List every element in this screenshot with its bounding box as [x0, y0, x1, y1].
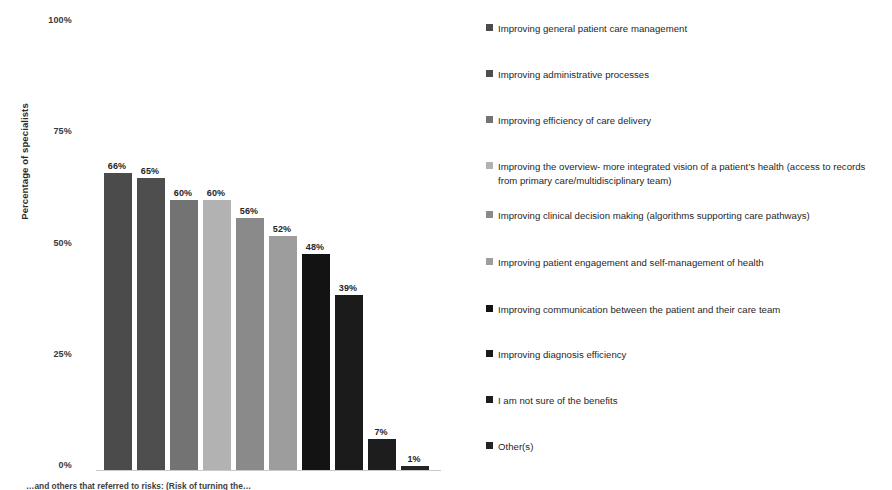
bar-8[interactable] — [335, 295, 363, 471]
legend-label-10: Other(s) — [498, 440, 533, 454]
bar-value-label-8: 39% — [330, 283, 366, 293]
bar-chart-figure: Percentage of specialists 100%75%50%25%0… — [0, 0, 892, 490]
legend-swatch-icon-9 — [486, 396, 493, 403]
legend-label-8: Improving diagnosis efficiency — [498, 348, 626, 362]
legend-swatch-icon-10 — [486, 442, 493, 449]
legend-swatch-icon-8 — [486, 350, 493, 357]
bar-value-label-3: 60% — [165, 188, 201, 198]
plot-region: 66%65%60%60%56%52%48%39%7%1% — [96, 16, 446, 471]
legend-item-5[interactable]: Improving clinical decision making (algo… — [486, 209, 886, 223]
x-axis-line — [96, 470, 441, 471]
bar-value-label-1: 66% — [99, 161, 135, 171]
legend-item-2[interactable]: Improving administrative processes — [486, 68, 886, 82]
legend-item-7[interactable]: Improving communication between the pati… — [486, 303, 886, 317]
legend-swatch-icon-3 — [486, 116, 493, 123]
bar-series: 66%65%60%60%56%52%48%39%7%1% — [103, 20, 443, 470]
bar-slot-5[interactable]: 56% — [235, 20, 268, 470]
legend-label-5: Improving clinical decision making (algo… — [498, 209, 810, 223]
y-axis-tick-0: 0% — [32, 460, 72, 470]
legend-item-4[interactable]: Improving the overview- more integrated … — [486, 160, 886, 187]
bar-value-label-2: 65% — [132, 166, 168, 176]
bar-6[interactable] — [269, 236, 297, 470]
y-axis-tick-25: 25% — [32, 349, 72, 359]
legend-label-6: Improving patient engagement and self-ma… — [498, 256, 764, 270]
legend-swatch-icon-6 — [486, 258, 493, 265]
bar-value-label-4: 60% — [198, 188, 234, 198]
legend-swatch-icon-4 — [486, 162, 493, 169]
bar-slot-8[interactable]: 39% — [334, 20, 367, 470]
legend-label-3: Improving efficiency of care delivery — [498, 114, 651, 128]
y-axis-tick-75: 75% — [32, 126, 72, 136]
bar-5[interactable] — [236, 218, 264, 470]
bar-slot-1[interactable]: 66% — [103, 20, 136, 470]
legend-swatch-icon-5 — [486, 211, 493, 218]
bar-slot-2[interactable]: 65% — [136, 20, 169, 470]
bar-7[interactable] — [302, 254, 330, 470]
bar-slot-7[interactable]: 48% — [301, 20, 334, 470]
bar-value-label-5: 56% — [231, 206, 267, 216]
chart-legend: Improving general patient care managemen… — [486, 0, 892, 460]
legend-label-7: Improving communication between the pati… — [498, 303, 780, 317]
legend-item-1[interactable]: Improving general patient care managemen… — [486, 22, 886, 36]
bar-slot-10[interactable]: 1% — [400, 20, 433, 470]
y-axis-tick-labels: 100%75%50%25%0% — [28, 0, 72, 490]
bar-2[interactable] — [137, 178, 165, 471]
legend-label-2: Improving administrative processes — [498, 68, 649, 82]
legend-item-3[interactable]: Improving efficiency of care delivery — [486, 114, 886, 128]
chart-area: Percentage of specialists 100%75%50%25%0… — [0, 0, 470, 490]
bar-1[interactable] — [104, 173, 132, 470]
legend-item-10[interactable]: Other(s) — [486, 440, 886, 454]
legend-swatch-icon-7 — [486, 305, 493, 312]
bar-10[interactable] — [401, 466, 429, 471]
bar-value-label-7: 48% — [297, 242, 333, 252]
legend-label-4: Improving the overview- more integrated … — [498, 160, 886, 187]
bar-slot-9[interactable]: 7% — [367, 20, 400, 470]
bar-slot-4[interactable]: 60% — [202, 20, 235, 470]
legend-item-9[interactable]: I am not sure of the benefits — [486, 394, 886, 408]
legend-swatch-icon-1 — [486, 24, 493, 31]
legend-swatch-icon-2 — [486, 70, 493, 77]
y-axis-tick-50: 50% — [32, 238, 72, 248]
bar-value-label-9: 7% — [363, 427, 399, 437]
bar-value-label-6: 52% — [264, 224, 300, 234]
figure-caption: …and others that referred to risks: (Ris… — [26, 481, 886, 490]
bar-9[interactable] — [368, 439, 396, 471]
bar-value-label-10: 1% — [396, 454, 432, 464]
legend-label-1: Improving general patient care managemen… — [498, 22, 687, 36]
bar-4[interactable] — [203, 200, 231, 470]
bar-3[interactable] — [170, 200, 198, 470]
legend-label-9: I am not sure of the benefits — [498, 394, 618, 408]
legend-item-6[interactable]: Improving patient engagement and self-ma… — [486, 256, 886, 270]
y-axis-tick-100: 100% — [32, 15, 72, 25]
bar-slot-3[interactable]: 60% — [169, 20, 202, 470]
legend-item-8[interactable]: Improving diagnosis efficiency — [486, 348, 886, 362]
